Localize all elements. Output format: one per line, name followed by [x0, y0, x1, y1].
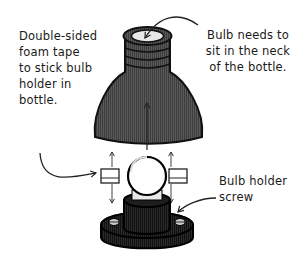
foam-tape-label: Double-sided foam tape to stick bulb hol…: [19, 28, 119, 108]
label-line: sit in the neck: [203, 43, 293, 59]
label-line: Bulb holder: [219, 173, 298, 189]
label-line: Double-sided: [19, 28, 119, 44]
label-line: screw: [219, 189, 298, 205]
label-line: Bulb needs to: [203, 27, 293, 43]
label-line: to stick bulb: [19, 60, 119, 76]
screw-pointer-arrow: [178, 198, 216, 212]
label-line: bottle.: [19, 92, 119, 108]
label-line: holder in: [19, 76, 119, 92]
foam-tape-left: [101, 152, 119, 203]
label-line: foam tape: [19, 44, 119, 60]
label-line: of the bottle.: [203, 59, 293, 75]
bulb-holder: [101, 193, 193, 248]
tape-pointer-arrow: [40, 153, 96, 177]
bulb-neck-label: Bulb needs to sit in the neck of the bot…: [203, 27, 293, 75]
holder-screw-label: Bulb holder screw: [219, 173, 298, 205]
foam-tape-right: [169, 152, 187, 203]
bulb: [128, 157, 166, 200]
